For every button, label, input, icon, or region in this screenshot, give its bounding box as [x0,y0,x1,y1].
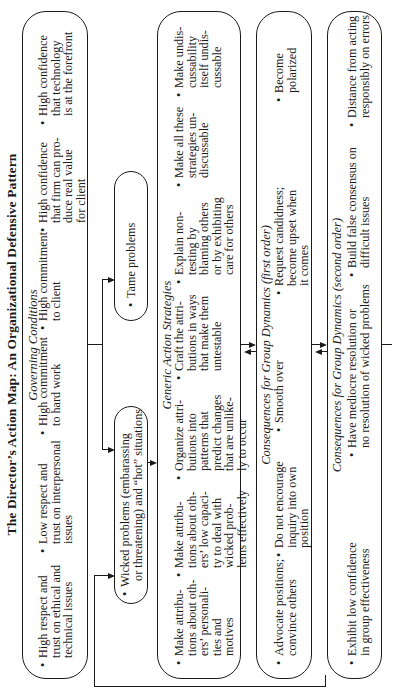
arrow-icon [244,349,251,355]
wicked-problems-box: •Wicked problems (embarassing or threate… [114,406,148,604]
consequence-item: •Advocate positions; convince others [273,559,298,656]
consequences-first-order-box: Consequences for Group Dynamics (first o… [256,11,312,679]
governing-item: •High confidence that technology is at t… [37,32,75,116]
wicked-problems-text: •Wicked problems (embarassing or threate… [119,409,144,587]
governing-item: •High commitment to hard work [37,337,62,426]
consequence-item: •Become polarized [273,48,298,93]
tame-problems-box: •Tame problems [114,171,148,321]
tame-problems-text: •Tame problems [125,223,138,298]
governing-item: •High commitment to client [37,232,62,321]
feedback-loop-line [94,575,95,687]
connector-line [102,280,103,450]
governing-item: •High respect and trust on ethical and t… [37,565,75,658]
arrow-icon [150,460,157,466]
consequences-second-order-label: Consequences for Group Dynamics (second … [330,12,345,678]
strategy-item: •Make all these strategies un- discussab… [173,107,211,178]
consequence-item: •Build false consensus on difficult issu… [346,147,371,268]
consequence-item: •Exhibit low confidence in group effecti… [346,542,371,656]
consequence-item: •Have mediocre resolution or no resoluti… [346,284,371,448]
strategy-item: •Craft the attri- butions in ways that m… [173,294,223,371]
governing-item: •High confidence that firm can pro- duce… [37,137,87,223]
consequence-item: •Do not encourage inquiry into own posit… [273,461,311,548]
strategy-item: •Organize attri- butions into patterns t… [173,395,249,471]
feedback-loop-line [325,675,326,687]
arrow-icon [315,349,322,355]
arrow-icon [320,342,327,348]
action-map-diagram: The Director’s Action Map: An Organizati… [0,0,395,689]
diagram-title: The Director’s Action Map: An Organizati… [4,0,20,689]
generic-action-strategies-box: Generic Action Strategies •Make attribu-… [157,11,241,679]
arrow-icon [249,342,256,348]
strategy-item: •Make attribu- tions about oth- ers’ per… [173,579,236,656]
strategy-item: •Explain non- testing by blaming others … [173,197,236,275]
consequence-item: •Smooth over [273,360,286,423]
consequences-second-order-box: Consequences for Group Dynamics (second … [327,11,382,679]
strategy-item: •Make undis- cussability itself undis- c… [173,27,223,88]
feedback-loop-line [94,686,326,687]
connector-line [88,344,102,345]
governing-item: •Low respect and trust on interpersonal … [37,440,75,544]
feedback-loop-line [391,344,392,345]
consequence-item: •Request candidness; become upset when i… [273,187,311,286]
consequence-item: •Distance from acting responsibly on err… [346,15,371,118]
governing-conditions-box: Governing Conditions •High respect and t… [22,11,88,679]
strategy-item: •Make attribu- tions about oth- ers’ low… [173,490,249,568]
